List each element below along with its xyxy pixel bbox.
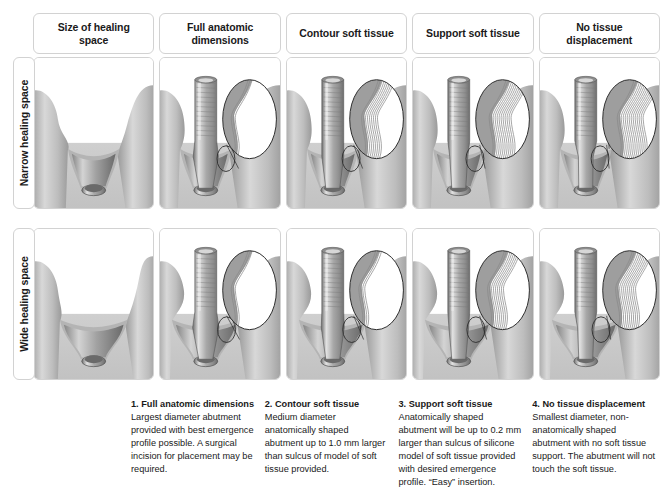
caption-1: 1. Full anatomic dimensions Largest diam… bbox=[131, 398, 259, 488]
caption-body: Medium diameter anatomically shaped abut… bbox=[265, 411, 389, 476]
cell-narrow-full bbox=[159, 57, 280, 209]
panel-row-narrow bbox=[33, 57, 660, 209]
column-header-row: Size of healingspace Full anatomicdimens… bbox=[33, 13, 660, 54]
caption-title: 4. No tissue displacement bbox=[532, 398, 656, 411]
cell-wide-none bbox=[539, 228, 660, 380]
anatomy-illustration bbox=[160, 58, 279, 208]
column-header-label: Support soft tissue bbox=[426, 27, 520, 39]
cell-wide-contour bbox=[286, 228, 407, 380]
panel-row-wide bbox=[33, 228, 660, 380]
column-header-label: Contour soft tissue bbox=[299, 27, 393, 39]
column-header-size: Size of healingspace bbox=[33, 13, 154, 54]
column-header-none: No tissue displacement bbox=[539, 13, 660, 54]
column-header-full: Full anatomicdimensions bbox=[159, 13, 280, 54]
caption-title: 1. Full anatomic dimensions bbox=[131, 398, 255, 411]
cell-narrow-none bbox=[539, 57, 660, 209]
cell-narrow-size bbox=[33, 57, 154, 209]
caption-row: 1. Full anatomic dimensions Largest diam… bbox=[131, 398, 660, 488]
row-label-narrow-healing-space: Narrow healing space bbox=[13, 57, 35, 209]
caption-body: Largest diameter abutment provided with … bbox=[131, 411, 255, 476]
anatomy-illustration bbox=[540, 58, 659, 208]
anatomy-illustration bbox=[540, 229, 659, 379]
column-header-contour: Contour soft tissue bbox=[286, 13, 407, 54]
anatomy-illustration bbox=[287, 58, 406, 208]
anatomy-illustration bbox=[160, 229, 279, 379]
anatomy-illustration bbox=[287, 229, 406, 379]
cell-narrow-contour bbox=[286, 57, 407, 209]
cell-wide-size bbox=[33, 228, 154, 380]
anatomy-illustration bbox=[34, 229, 153, 379]
caption-2: 2. Contour soft tissue Medium diameter a… bbox=[265, 398, 393, 488]
column-header-label: Full anatomicdimensions bbox=[187, 21, 253, 46]
anatomy-illustration bbox=[413, 58, 532, 208]
caption-4: 4. No tissue displacement Smallest diame… bbox=[532, 398, 660, 488]
anatomy-illustration bbox=[34, 58, 153, 208]
cell-wide-full bbox=[159, 228, 280, 380]
column-header-support: Support soft tissue bbox=[412, 13, 533, 54]
row-label-wide-healing-space: Wide healing space bbox=[13, 228, 35, 380]
caption-body: Anatomically shaped abutment will be up … bbox=[399, 411, 523, 489]
cell-wide-support bbox=[412, 228, 533, 380]
caption-3: 3. Support soft tissue Anatomically shap… bbox=[399, 398, 527, 488]
figure-root: Size of healingspace Full anatomicdimens… bbox=[0, 0, 664, 490]
cell-narrow-support bbox=[412, 57, 533, 209]
caption-title: 3. Support soft tissue bbox=[399, 398, 523, 411]
anatomy-illustration bbox=[413, 229, 532, 379]
column-header-label: No tissue displacement bbox=[544, 21, 655, 46]
caption-title: 2. Contour soft tissue bbox=[265, 398, 389, 411]
row-label-text: Narrow healing space bbox=[18, 80, 30, 187]
row-label-text: Wide healing space bbox=[18, 256, 30, 352]
column-header-label: Size of healingspace bbox=[58, 21, 130, 46]
caption-body: Smallest diameter, non-anatomically shap… bbox=[532, 411, 656, 476]
